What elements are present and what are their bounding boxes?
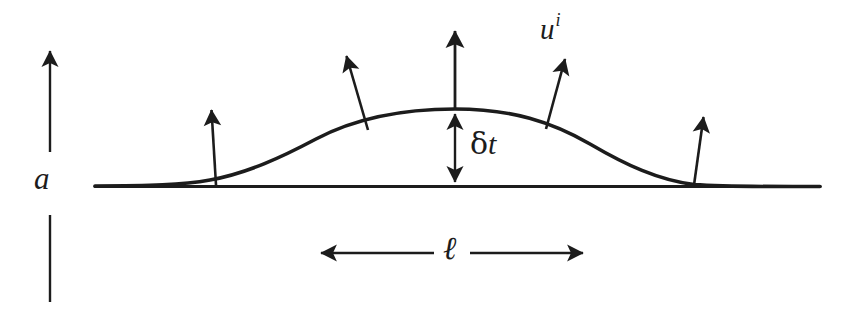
velocity-label-base: u [540,13,555,45]
amplitude-label-a: a [34,163,50,194]
velocity-label-u-superscript-i: ui [540,13,560,44]
normal-velocity-arrow-4 [546,59,565,129]
normal-velocity-arrow-5 [694,117,704,185]
thickness-label-t: t [488,127,496,160]
perturbed-surface-curve [95,109,820,187]
normal-velocity-arrow-1 [212,110,217,185]
velocity-label-superscript: i [556,10,561,30]
length-label-ell: ℓ [443,232,456,264]
delta-glyph: δ [470,126,488,161]
normal-velocity-arrow-2 [347,56,369,130]
figure-root: a ui δt ℓ [0,0,849,311]
diagram-canvas [0,0,849,311]
thickness-label-delta-t: δt [470,129,496,159]
